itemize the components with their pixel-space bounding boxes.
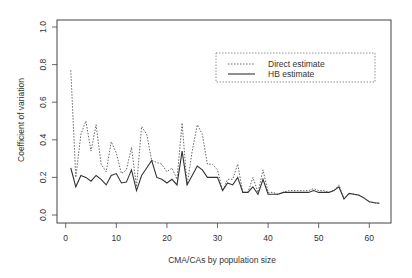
y-tick-label: 0.0 (38, 209, 48, 221)
x-tick-label: 60 (365, 233, 375, 243)
x-tick-label: 40 (263, 233, 273, 243)
x-axis-title: CMA/CAs by population size (168, 255, 276, 265)
x-tick-label: 0 (63, 233, 68, 243)
x-axis: 0102030405060 (63, 223, 374, 243)
hb-estimate-line (71, 151, 380, 203)
legend: Direct estimate HB estimate (216, 53, 375, 82)
y-tick-label: 0.6 (38, 96, 48, 108)
y-axis: 0.00.20.40.60.81.0 (38, 21, 57, 221)
legend-label-hb: HB estimate (268, 69, 315, 79)
legend-label-direct: Direct estimate (268, 59, 325, 69)
y-tick-label: 0.8 (38, 58, 48, 70)
direct-estimate-line (71, 70, 380, 203)
y-tick-label: 0.4 (38, 134, 48, 146)
y-tick-label: 1.0 (38, 21, 48, 33)
x-tick-label: 30 (213, 233, 223, 243)
x-tick-label: 20 (162, 233, 172, 243)
y-axis-title: Coefficient of variation (16, 78, 26, 162)
line-chart: 0.00.20.40.60.81.0 0102030405060 Direct … (0, 0, 412, 278)
x-tick-label: 50 (314, 233, 324, 243)
y-tick-label: 0.2 (38, 171, 48, 183)
x-tick-label: 10 (112, 233, 122, 243)
